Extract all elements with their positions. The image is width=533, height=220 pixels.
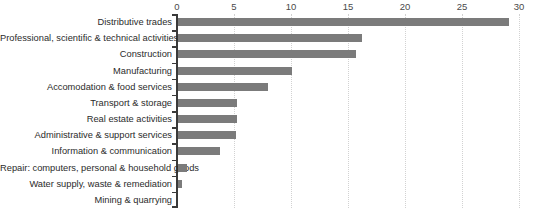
bar [178, 50, 356, 58]
bar-row: Manufacturing [177, 63, 525, 79]
category-tick-mark [172, 14, 177, 16]
bar [178, 18, 509, 26]
category-label: Mining & quarrying [0, 194, 172, 205]
bar-row: Accomodation & food services [177, 79, 525, 95]
category-tick-mark [172, 63, 177, 65]
category-tick-mark [172, 79, 177, 81]
x-tick-label-5: 5 [231, 1, 236, 13]
bar-row: Real estate activities [177, 111, 525, 127]
bar-row: Mining & quarrying [177, 192, 525, 208]
x-tick-label-25: 25 [457, 1, 468, 13]
x-tick-label-10: 10 [286, 1, 297, 13]
bar-row: Professional, scientific & technical act… [177, 30, 525, 46]
x-tick-label-0: 0 [174, 1, 179, 13]
bar-row: Repair: computers, personal & household … [177, 160, 525, 176]
bar [178, 34, 362, 42]
category-label: Repair: computers, personal & household … [0, 162, 172, 173]
category-label: Distributive trades [0, 17, 172, 28]
plot-area: 051015202530 Distributive tradesProfessi… [177, 14, 525, 208]
category-tick-mark [172, 30, 177, 32]
category-label: Information & communication [0, 146, 172, 157]
bar [178, 180, 182, 188]
category-label: Professional, scientific & technical act… [0, 33, 172, 44]
category-label: Transport & storage [0, 97, 172, 108]
category-tick-mark [172, 176, 177, 178]
bar [178, 83, 268, 91]
bar [178, 99, 237, 107]
bar [178, 115, 237, 123]
category-tick-mark [172, 46, 177, 48]
category-label: Accomodation & food services [0, 81, 172, 92]
category-tick-mark [172, 160, 177, 162]
x-tick-label-20: 20 [400, 1, 411, 13]
bar [178, 67, 292, 75]
category-label: Construction [0, 49, 172, 60]
bar [178, 131, 236, 139]
category-tick-mark [172, 143, 177, 145]
category-tick-mark [172, 127, 177, 129]
x-tick-label-15: 15 [343, 1, 354, 13]
category-label: Water supply, waste & remediation [0, 178, 172, 189]
category-tick-mark [172, 206, 177, 208]
bar [178, 147, 220, 155]
bar-chart: 051015202530 Distributive tradesProfessi… [0, 0, 533, 220]
bar-row: Transport & storage [177, 95, 525, 111]
category-tick-mark [172, 192, 177, 194]
category-label: Manufacturing [0, 65, 172, 76]
bar-row: Information & communication [177, 143, 525, 159]
bar-row: Construction [177, 46, 525, 62]
bar-row: Administrative & support services [177, 127, 525, 143]
category-tick-mark [172, 111, 177, 113]
bar-row: Water supply, waste & remediation [177, 176, 525, 192]
category-label: Administrative & support services [0, 130, 172, 141]
bar-row: Distributive trades [177, 14, 525, 30]
category-label: Real estate activities [0, 114, 172, 125]
x-tick-label-30: 30 [514, 1, 525, 13]
bar [178, 164, 187, 172]
category-tick-mark [172, 95, 177, 97]
